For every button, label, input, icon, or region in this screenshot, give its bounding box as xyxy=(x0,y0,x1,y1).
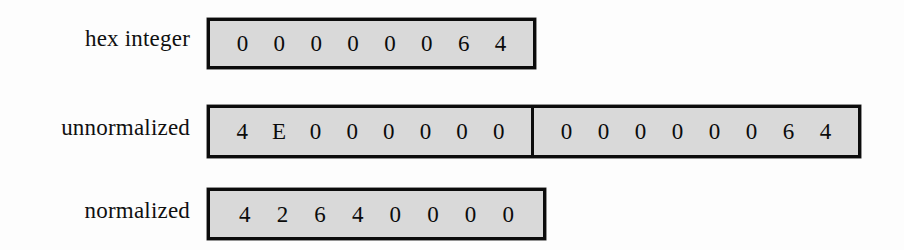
word-segment-unnormalized-high: 4 E 0 0 0 0 0 0 xyxy=(210,108,534,155)
hex-digit: 0 xyxy=(378,32,401,55)
hex-digit: 4 xyxy=(346,203,369,226)
row-unnormalized: unnormalized 4 E 0 0 0 0 0 0 0 0 0 0 0 0… xyxy=(0,88,904,176)
hex-digit: 0 xyxy=(384,203,407,226)
hex-digit: 0 xyxy=(666,120,689,143)
hex-digit: 4 xyxy=(231,120,254,143)
hex-digit: 0 xyxy=(497,203,520,226)
hex-digit: 0 xyxy=(415,32,438,55)
row-label-unnormalized: unnormalized xyxy=(0,115,190,141)
hex-digit: 0 xyxy=(305,32,328,55)
word-box-unnormalized: 4 E 0 0 0 0 0 0 0 0 0 0 0 0 6 4 xyxy=(207,105,861,158)
row-normalized: normalized 4 2 6 4 0 0 0 0 xyxy=(0,172,904,250)
hex-digit: 2 xyxy=(271,203,294,226)
word-segment-normalized: 4 2 6 4 0 0 0 0 xyxy=(210,191,543,237)
row-label-hex-integer: hex integer xyxy=(0,26,190,52)
hex-float-representation-figure: hex integer 0 0 0 0 0 0 6 4 unnormalized… xyxy=(0,0,904,250)
hex-digit: 6 xyxy=(452,32,475,55)
hex-digit: 0 xyxy=(421,203,444,226)
word-box-normalized: 4 2 6 4 0 0 0 0 xyxy=(207,188,546,240)
hex-digit: 0 xyxy=(268,32,291,55)
hex-digit: 0 xyxy=(451,120,474,143)
hex-digit: 0 xyxy=(231,32,254,55)
hex-digit: 0 xyxy=(459,203,482,226)
hex-digit: 0 xyxy=(342,32,365,55)
word-segment-unnormalized-low: 0 0 0 0 0 0 6 4 xyxy=(534,108,858,155)
hex-digit: 4 xyxy=(814,120,837,143)
hex-digit: 0 xyxy=(414,120,437,143)
hex-digit: 0 xyxy=(592,120,615,143)
word-segment-hex-integer: 0 0 0 0 0 0 6 4 xyxy=(210,21,533,66)
hex-digit: 6 xyxy=(777,120,800,143)
hex-digit: 0 xyxy=(555,120,578,143)
hex-digit: 6 xyxy=(309,203,332,226)
hex-digit: 0 xyxy=(740,120,763,143)
hex-digit: 0 xyxy=(377,120,400,143)
hex-digit: 0 xyxy=(629,120,652,143)
hex-digit: 0 xyxy=(304,120,327,143)
hex-digit: 0 xyxy=(487,120,510,143)
hex-digit: 0 xyxy=(341,120,364,143)
hex-digit: 0 xyxy=(703,120,726,143)
word-box-hex-integer: 0 0 0 0 0 0 6 4 xyxy=(207,18,536,69)
hex-digit: E xyxy=(267,120,290,143)
row-label-normalized: normalized xyxy=(0,198,190,224)
hex-digit: 4 xyxy=(489,32,512,55)
hex-digit: 4 xyxy=(233,203,256,226)
row-hex-integer: hex integer 0 0 0 0 0 0 6 4 xyxy=(0,0,904,90)
